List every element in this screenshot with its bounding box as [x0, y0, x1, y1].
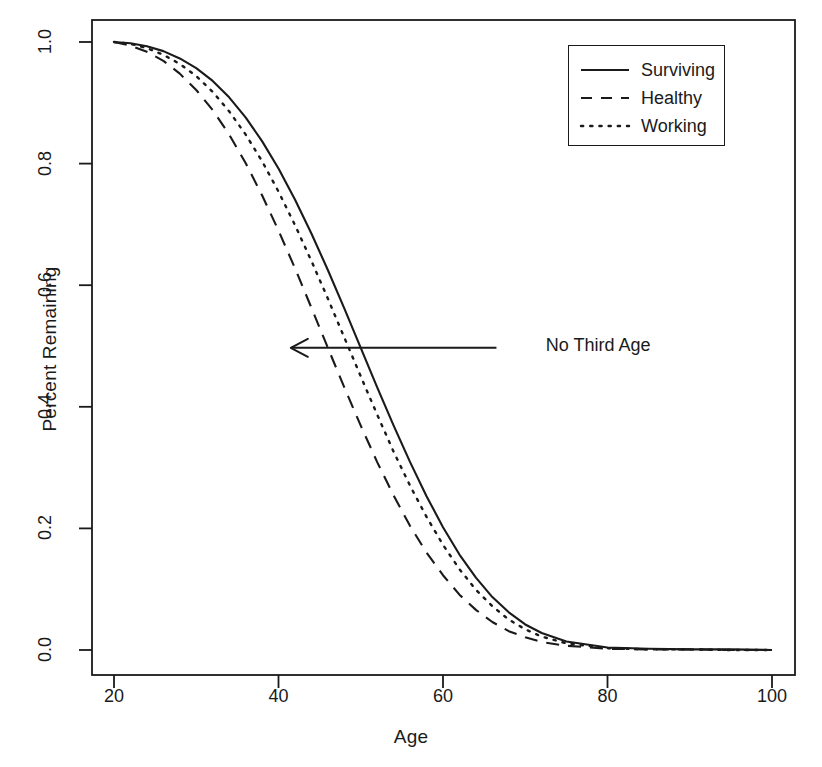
y-tick-label: 0.2 — [35, 498, 56, 558]
y-tick-label: 0.8 — [35, 133, 56, 193]
chart-figure: Age Percent Remaining 20406080100 0.00.2… — [0, 0, 822, 767]
annotation-arrow — [291, 339, 497, 357]
x-tick-label: 20 — [84, 686, 144, 707]
legend-label: Surviving — [641, 60, 715, 81]
legend-key-solid-icon — [579, 60, 631, 80]
x-axis-title: Age — [0, 726, 822, 748]
x-tick-label: 100 — [742, 686, 802, 707]
legend-entry-working: Working — [579, 112, 707, 140]
chart-legend: SurvivingHealthyWorking — [568, 45, 725, 146]
legend-label: Working — [641, 116, 707, 137]
y-tick-label: 0.0 — [35, 620, 56, 680]
x-tick-label: 80 — [578, 686, 638, 707]
legend-entry-surviving: Surviving — [579, 56, 715, 84]
y-tick-label: 1.0 — [35, 12, 56, 72]
y-tick-label: 0.4 — [35, 376, 56, 436]
x-tick-label: 40 — [249, 686, 309, 707]
legend-label: Healthy — [641, 88, 702, 109]
legend-key-dotted-icon — [579, 116, 631, 136]
annotation-label: No Third Age — [546, 335, 651, 356]
y-tick-label: 0.6 — [35, 255, 56, 315]
legend-entry-healthy: Healthy — [579, 84, 702, 112]
legend-key-dashed-icon — [579, 88, 631, 108]
x-tick-label: 60 — [413, 686, 473, 707]
